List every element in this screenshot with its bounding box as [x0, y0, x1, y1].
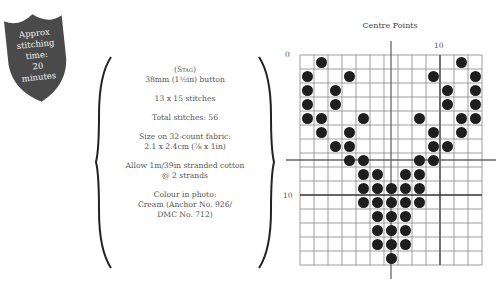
- stitch-cell: [412, 111, 426, 125]
- stitch-cell: [398, 237, 412, 251]
- colour-anchor: Cream (Anchor No. 926/: [138, 200, 232, 209]
- stitch-dot-icon: [428, 71, 439, 82]
- stitch-cell: [384, 209, 398, 223]
- stitch-cell: [398, 223, 412, 237]
- stitch-cell: [384, 251, 398, 265]
- stitch-cell: [342, 125, 356, 139]
- stitch-cell: [440, 83, 454, 97]
- stitch-cell: [300, 97, 314, 111]
- stitch-dot-icon: [372, 169, 383, 180]
- badge-text: Approx stitching time: 20 minutes: [1, 25, 72, 87]
- thread-strands: @ 2 strands: [162, 171, 208, 180]
- stitch-dot-icon: [330, 85, 341, 96]
- stitch-cell: [370, 195, 384, 209]
- stitch-dot-icon: [386, 183, 397, 194]
- stitch-dot-icon: [442, 99, 453, 110]
- stitching-time-badge: Approx stitching time: 20 minutes: [0, 9, 75, 107]
- stitch-dot-icon: [372, 211, 383, 222]
- stitch-cell: [426, 69, 440, 83]
- stitch-dot-icon: [428, 155, 439, 166]
- stitch-dot-icon: [358, 197, 369, 208]
- stitch-cell: [412, 195, 426, 209]
- stitch-dot-icon: [344, 127, 355, 138]
- stitch-cell: [398, 209, 412, 223]
- stitch-dot-icon: [358, 155, 369, 166]
- fabric-size-value: 2.1 x 2.4cm (⁷⁄₈ x 1in): [144, 142, 226, 151]
- stitch-cell: [412, 167, 426, 181]
- stitch-cell: [412, 181, 426, 195]
- stitch-cell: [370, 223, 384, 237]
- stitch-cell: [454, 111, 468, 125]
- stitch-dot-icon: [372, 225, 383, 236]
- stitch-cell: [356, 111, 370, 125]
- stitch-dot-icon: [400, 197, 411, 208]
- stitch-cell: [342, 69, 356, 83]
- stitch-dot-icon: [358, 183, 369, 194]
- stitch-cell: [328, 97, 342, 111]
- stitch-dot-icon: [372, 183, 383, 194]
- colour-label: Colour in photo:: [154, 190, 217, 199]
- stitch-dot-icon: [386, 239, 397, 250]
- stitch-cell: [328, 83, 342, 97]
- motif-name: (Stag): [174, 65, 196, 74]
- stitch-dot-icon: [358, 113, 369, 124]
- stitch-cell: [356, 167, 370, 181]
- stitch-cell: [370, 167, 384, 181]
- stitch-dot-icon: [428, 127, 439, 138]
- stitch-cell: [426, 139, 440, 153]
- total-stitches: Total stitches: 56: [152, 113, 218, 122]
- stitch-cell: [384, 223, 398, 237]
- stitch-dot-icon: [414, 169, 425, 180]
- stitch-chart: [300, 55, 482, 265]
- stitch-cell: [454, 125, 468, 139]
- stitch-dot-icon: [442, 141, 453, 152]
- stitch-cell: [356, 153, 370, 167]
- pattern-info: (Stag) 38mm (1½in) button 13 x 15 stitch…: [110, 65, 260, 229]
- stitch-cell: [370, 209, 384, 223]
- stitch-dot-icon: [470, 113, 481, 124]
- stitch-dot-icon: [344, 155, 355, 166]
- stitch-cell: [328, 139, 342, 153]
- stitch-dot-icon: [302, 99, 313, 110]
- stitch-dot-icon: [386, 225, 397, 236]
- stitch-cell: [384, 181, 398, 195]
- stitch-cell: [314, 55, 328, 69]
- stitch-cell: [440, 97, 454, 111]
- stitch-cell: [314, 125, 328, 139]
- stitch-cell: [468, 69, 482, 83]
- stitch-dot-icon: [400, 169, 411, 180]
- stitch-cell: [356, 195, 370, 209]
- stitch-dot-icon: [330, 99, 341, 110]
- stitch-dot-icon: [414, 113, 425, 124]
- stitch-cell: [314, 111, 328, 125]
- stitch-dot-icon: [414, 197, 425, 208]
- stitch-cell: [468, 83, 482, 97]
- stitch-dot-icon: [386, 253, 397, 264]
- stitch-dot-icon: [344, 71, 355, 82]
- stitch-cell: [440, 139, 454, 153]
- stitch-cell: [370, 237, 384, 251]
- stitch-dot-icon: [414, 155, 425, 166]
- stitch-cell: [412, 153, 426, 167]
- thread-allowance: Allow 1m/39in stranded cotton: [126, 161, 245, 170]
- stitch-dot-icon: [414, 183, 425, 194]
- stitch-dot-icon: [302, 113, 313, 124]
- stitch-cell: [342, 139, 356, 153]
- stitch-dot-icon: [442, 85, 453, 96]
- stitch-dot-icon: [358, 169, 369, 180]
- stitch-cell: [398, 167, 412, 181]
- stitch-grid: [300, 55, 482, 265]
- stitch-dot-icon: [400, 183, 411, 194]
- stitch-cell: [454, 55, 468, 69]
- stitch-dot-icon: [386, 211, 397, 222]
- stitch-dot-icon: [316, 113, 327, 124]
- stitch-cell: [300, 83, 314, 97]
- stitch-dot-icon: [344, 141, 355, 152]
- button-size: 38mm (1½in) button: [145, 75, 225, 84]
- stitch-cell: [398, 181, 412, 195]
- stitch-cell: [384, 195, 398, 209]
- fabric-size-label: Size on 32-count fabric:: [139, 132, 231, 141]
- stitch-cell: [370, 181, 384, 195]
- stitch-dot-icon: [456, 57, 467, 68]
- stitch-cell: [342, 153, 356, 167]
